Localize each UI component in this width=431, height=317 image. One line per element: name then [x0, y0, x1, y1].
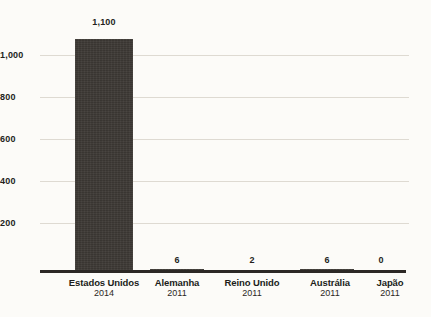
y-axis-tick-label-800: 800 — [0, 92, 34, 102]
category-year-alemanha: 2011 — [142, 288, 212, 299]
x-axis-category-japao: Japão 2011 — [362, 277, 418, 299]
plot-area — [40, 18, 409, 272]
bar-value-japao: 0 — [360, 255, 402, 265]
category-name-alemanha: Alemanha — [142, 277, 212, 288]
bar-estados-unidos[interactable] — [75, 39, 133, 272]
category-year-japao: 2011 — [362, 288, 418, 299]
category-year-australia: 2011 — [294, 288, 366, 299]
category-name-reino-unido: Reino Unido — [210, 277, 294, 288]
bar-value-alemanha: 6 — [150, 255, 204, 265]
y-axis-tick-label-600: 600 — [0, 134, 34, 144]
y-axis-tick-label-400: 400 — [0, 176, 34, 186]
bar-chart: 1,000 800 600 400 200 1,100 6 2 6 0 Esta… — [0, 0, 431, 317]
bar-value-australia: 6 — [300, 255, 354, 265]
x-axis-category-reino-unido: Reino Unido 2011 — [210, 277, 294, 299]
x-axis-line — [40, 270, 406, 273]
y-axis-tick-label-1000: 1,000 — [0, 50, 34, 60]
category-name-australia: Austrália — [294, 277, 366, 288]
category-name-japao: Japão — [362, 277, 418, 288]
y-axis-tick-label-200: 200 — [0, 218, 34, 228]
bar-value-reino-unido: 2 — [225, 255, 279, 265]
x-axis-category-alemanha: Alemanha 2011 — [142, 277, 212, 299]
x-axis-category-australia: Austrália 2011 — [294, 277, 366, 299]
category-year-reino-unido: 2011 — [210, 288, 294, 299]
bar-value-estados-unidos: 1,100 — [75, 17, 133, 27]
